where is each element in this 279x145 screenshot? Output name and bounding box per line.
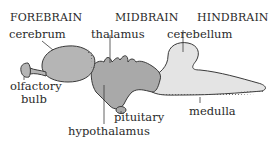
hypothalamus-label: hypothalamus	[68, 124, 150, 138]
hindbrain-label: HINDBRAIN	[197, 11, 269, 24]
midbrain-shape	[91, 56, 160, 109]
pituitary-label: pituitary	[114, 110, 164, 124]
medulla-label: medulla	[189, 104, 236, 118]
olfactory-bulb-shape	[21, 63, 31, 77]
bulb-label: bulb	[21, 92, 47, 106]
brain-diagram: FOREBRAIN MIDBRAIN HINDBRAIN cerebrum th…	[0, 0, 279, 145]
cerebrum-label: cerebrum	[9, 27, 66, 41]
cerebrum-leader	[42, 41, 53, 50]
midbrain-label: MIDBRAIN	[115, 11, 179, 24]
olfactory-label: olfactory	[10, 79, 62, 93]
thalamus-label: thalamus	[91, 27, 145, 41]
hindbrain-shape	[150, 43, 265, 96]
forebrain-label: FOREBRAIN	[10, 11, 82, 24]
cerebellum-label: cerebellum	[167, 27, 232, 41]
